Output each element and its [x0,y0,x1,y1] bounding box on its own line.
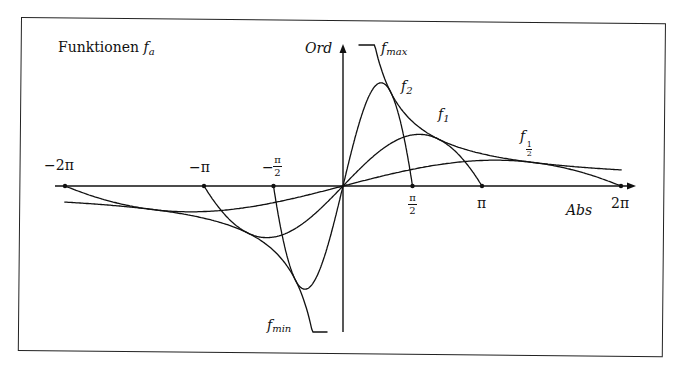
tick-label-minus-half-pi: π2 [273,155,282,178]
x-axis-arrow-icon [627,183,636,190]
label-fmax: fmax [381,41,407,55]
curve-fmin [64,202,327,332]
curve-fmax [359,45,622,170]
tick-label-2pi: 2π [611,196,629,210]
tick-label-minus-2pi: −2π [44,158,74,172]
label-fhalf: f12 [520,129,532,152]
tick-label-minus-pi: −π [189,160,210,174]
tick-label-pi: π [477,196,486,210]
label-f2: f2 [401,79,413,93]
y-axis-label: Ord [305,41,332,55]
tick-label-half-pi: π2 [408,193,417,216]
plot-area [0,0,682,372]
chart-title: Funktionen fa [58,40,155,54]
y-axis-arrow-icon [340,44,347,53]
axes [55,44,636,332]
x-axis-label: Abs [566,203,592,217]
label-fmin: fmin [267,318,291,332]
tick-label-minus-half-pi-sign: − [262,160,274,174]
label-f1: f1 [438,107,450,121]
